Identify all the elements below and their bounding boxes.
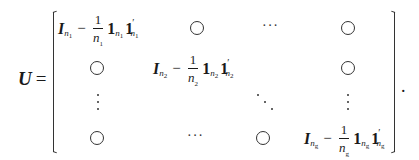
zero-block-r2c4	[341, 61, 355, 75]
minus-sign: −	[323, 130, 331, 147]
minus-sign: −	[172, 60, 180, 77]
zero-block-r4c3	[256, 131, 270, 145]
diag-block-2: In2 − 1 n2 1n2 1′n2	[153, 53, 233, 84]
diag-block-1: In1 − 1 n1 1n1 1′n1	[58, 13, 138, 44]
lhs-symbol: U	[18, 68, 32, 89]
fraction: 1 ng	[339, 123, 350, 154]
identity-subscript: n1	[64, 28, 72, 38]
right-bracket	[390, 12, 395, 152]
ones-vector: 1	[202, 60, 210, 78]
minus-sign: −	[77, 20, 85, 37]
equals-sign: =	[36, 68, 47, 89]
ones-vector: 1	[107, 20, 115, 38]
zero-block-r1c2	[190, 21, 204, 35]
hdots-r1c3: ···	[262, 18, 279, 34]
hdots-r4c2: ···	[187, 128, 204, 144]
zero-block-r2c1	[90, 61, 104, 75]
zero-block-r4c1	[90, 131, 104, 145]
identity-subscript: ng	[310, 138, 318, 148]
terminator-period: .	[401, 76, 406, 97]
identity-subscript: n2	[159, 68, 167, 78]
vdots-r3c4	[347, 94, 349, 110]
ones-vector: 1	[353, 130, 361, 148]
fraction: 1 n2	[188, 53, 199, 84]
zero-block-r1c4	[341, 21, 355, 35]
ddots-r3c3	[255, 92, 275, 112]
diag-block-g: Ing − 1 ng 1ng 1′ng	[304, 123, 384, 154]
lhs: U=	[18, 68, 46, 90]
fraction: 1 n1	[93, 13, 104, 44]
vdots-r3c1	[97, 94, 99, 110]
